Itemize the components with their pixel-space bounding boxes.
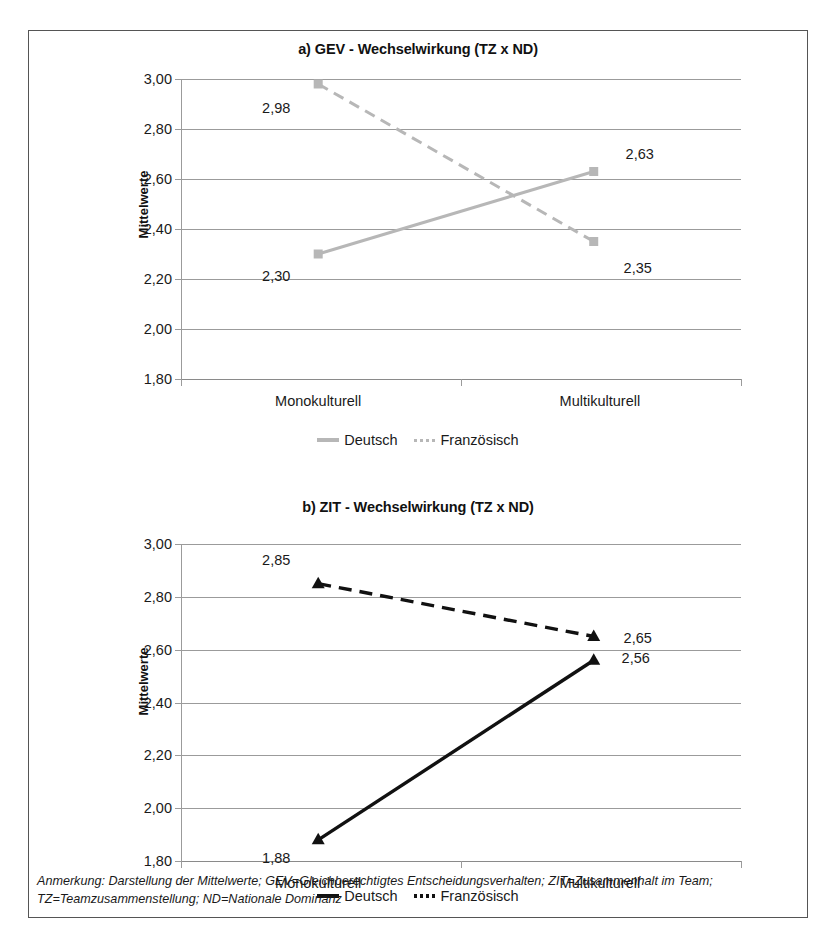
x-tick-mark [181,861,182,868]
y-tick-label: 2,60 [144,171,172,187]
line-dotted-icon [414,439,436,442]
figure-footnote: Anmerkung: Darstellung der Mittelwerte; … [37,873,797,909]
series-layer-zit [181,544,741,861]
x-tick-mark [461,861,462,868]
y-tick-label: 3,00 [144,71,172,87]
x-tick-mark [741,861,742,868]
chart-panel-gev: a) GEV - Wechselwirkung (TZ x ND) Mittel… [29,31,807,471]
x-tick-label: Monokulturell [275,393,361,409]
y-tick-label: 2,40 [144,695,172,711]
y-tick-label: 2,80 [144,121,172,137]
y-tick-label: 2,00 [144,800,172,816]
x-tick-label: Multikulturell [560,393,641,409]
y-tick-label: 1,80 [144,853,172,869]
y-tick-label: 2,60 [144,642,172,658]
chart-panel-zit: b) ZIT - Wechselwirkung (TZ x ND) Mittel… [29,471,807,917]
legend-label: Deutsch [344,432,397,448]
data-point-label: 2,56 [622,650,650,666]
y-tick-label: 2,80 [144,589,172,605]
legend-gev: Deutsch Französisch [29,432,807,448]
data-point-label: 2,35 [624,260,652,276]
y-tick-label: 2,20 [144,747,172,763]
data-point-label: 2,65 [624,630,652,646]
legend-label: Französisch [441,432,519,448]
data-point-label: 2,30 [262,268,290,284]
data-point-marker-square [314,250,323,259]
series-line [318,660,594,840]
data-point-label: 2,63 [626,146,654,162]
panel-a-title: a) GEV - Wechselwirkung (TZ x ND) [29,41,807,57]
legend-item-franzoesisch-gev[interactable]: Französisch [414,432,519,448]
plot-area-zit: Mittelwerte 1,802,002,202,402,602,803,00… [181,544,741,861]
data-point-marker-square [589,237,598,246]
y-tick-label: 2,40 [144,221,172,237]
series-line [318,584,594,637]
data-point-label: 2,98 [262,100,290,116]
legend-item-deutsch-gev[interactable]: Deutsch [317,432,397,448]
figure-frame: a) GEV - Wechselwirkung (TZ x ND) Mittel… [28,30,808,918]
plot-area-gev: Mittelwerte 1,802,002,202,402,602,803,00… [181,79,741,379]
y-axis-title-zit: Mittelwerte [136,622,151,742]
data-point-marker-square [589,167,598,176]
data-point-label: 2,85 [262,552,290,568]
y-tick-label: 1,80 [144,371,172,387]
x-tick-mark [741,379,742,386]
y-tick-label: 2,20 [144,271,172,287]
series-layer-gev [181,79,741,379]
data-point-marker-triangle [312,577,325,589]
panel-b-title: b) ZIT - Wechselwirkung (TZ x ND) [29,499,807,515]
data-point-marker-square [314,80,323,89]
data-point-label: 1,88 [262,850,290,866]
x-tick-mark [461,379,462,386]
line-solid-icon [317,438,339,442]
x-tick-mark [181,379,182,386]
y-tick-label: 2,00 [144,321,172,337]
y-tick-label: 3,00 [144,536,172,552]
series-line [318,172,594,255]
data-point-marker-triangle [587,653,600,665]
y-axis-title-gev: Mittelwerte [136,145,151,265]
series-line [318,84,594,242]
